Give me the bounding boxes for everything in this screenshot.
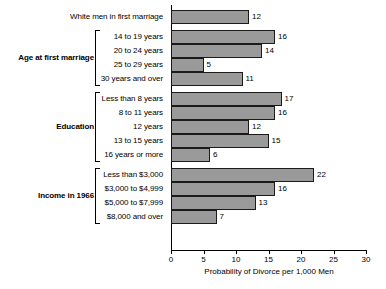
category-label: White men in first marriage [70,12,167,22]
x-axis-tick [366,250,367,254]
bar [171,210,217,224]
category-label: 8 to 11 years [119,108,167,118]
x-axis-tick [204,250,205,254]
x-axis-tick-label: 20 [291,255,311,265]
bar [171,30,275,44]
bar [171,148,210,162]
x-axis-tick-label: 15 [259,255,279,265]
x-axis-tick-label: 30 [356,255,376,265]
bar [171,58,204,72]
group-bracket [95,168,100,224]
category-label: 13 to 15 years [114,136,167,146]
bar [171,44,262,58]
category-label: 20 to 24 years [114,46,167,56]
bar-value-label: 16 [278,32,287,42]
bar-value-label: 13 [259,198,268,208]
bar [171,92,282,106]
x-axis-tick [171,250,172,254]
bar [171,134,269,148]
category-label: 14 to 19 years [114,32,167,42]
x-axis-title: Probability of Divorce per 1,000 Men [171,267,367,277]
bar [171,120,249,134]
bar-value-label: 12 [252,12,261,22]
x-axis-tick-label: 5 [194,255,214,265]
category-label: $5,000 to $7,999 [105,198,167,208]
bar-value-label: 16 [278,108,287,118]
x-axis-tick-label: 0 [161,255,181,265]
bar [171,106,275,120]
bar [171,72,243,86]
bar-value-label: 11 [246,74,254,84]
x-axis-tick [269,250,270,254]
category-label: 30 years and over [101,74,167,84]
group-title: Income in 1966 [38,191,94,201]
category-label: 25 to 29 years [114,60,167,70]
x-axis-tick-label: 10 [226,255,246,265]
x-axis-tick [236,250,237,254]
bar-value-label: 16 [278,184,287,194]
category-label: $8,000 and over [107,212,167,222]
bar-value-label: 6 [213,150,217,160]
group-bracket [95,92,100,162]
category-label: $3,000 to $4,999 [105,184,167,194]
bar [171,10,249,24]
category-label: Less than 8 years [102,94,167,104]
bar-value-label: 17 [285,94,294,104]
group-title: Education [56,122,94,132]
bar-value-label: 15 [272,136,281,146]
x-axis-tick [334,250,335,254]
category-label: 16 years or more [104,150,167,160]
bar-value-label: 5 [207,60,211,70]
category-label: Less than $3,000 [103,170,167,180]
bar-value-label: 22 [317,170,326,180]
x-axis-tick-label: 25 [324,255,344,265]
group-bracket [95,30,100,86]
x-axis-tick [301,250,302,254]
bar [171,168,314,182]
bar [171,182,275,196]
divorce-probability-bar-chart: Probability of Divorce per 1,000 Men 051… [0,0,386,289]
bar-value-label: 7 [220,212,224,222]
group-title: Age at first marriage [18,53,94,63]
bar [171,196,256,210]
bar-value-label: 12 [252,122,261,132]
category-label: 12 years [133,122,167,132]
bar-value-label: 14 [265,46,274,56]
